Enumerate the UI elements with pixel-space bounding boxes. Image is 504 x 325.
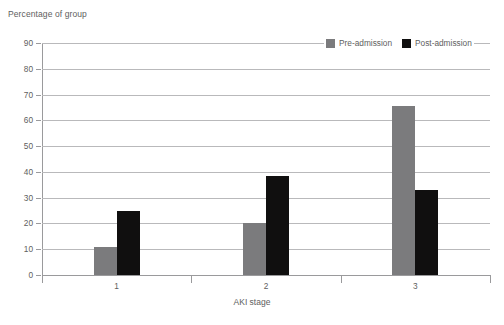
y-axis-tick-label: 80 [24, 64, 33, 74]
bar-group-2 [191, 43, 340, 275]
y-axis-tick-label: 20 [24, 218, 33, 228]
plot-area: 0102030405060708090 [42, 43, 490, 275]
y-axis-tick-mark [36, 275, 41, 276]
legend-label-pre-admission: Pre-admission [339, 38, 392, 48]
y-axis-tick-mark [36, 172, 41, 173]
bar-group-1 [42, 43, 191, 275]
legend-swatch-pre-admission [326, 39, 335, 48]
y-axis-tick-mark [36, 120, 41, 121]
x-axis-tick-label-3: 3 [341, 281, 490, 295]
x-axis-tick-mark [490, 275, 491, 283]
x-axis-tick-labels: 123 [42, 281, 490, 295]
y-axis-tick-mark [36, 223, 41, 224]
bar-groups [42, 43, 490, 275]
x-axis-tick-label-1: 1 [42, 281, 191, 295]
x-axis-line [42, 275, 491, 276]
bar-pre-admission-3[interactable] [392, 106, 415, 275]
y-axis-tick-mark [36, 249, 41, 250]
bar-pre-admission-2[interactable] [243, 223, 266, 275]
bar-pre-admission-1[interactable] [94, 247, 117, 275]
y-axis-tick-mark [36, 146, 41, 147]
bar-post-admission-2[interactable] [266, 176, 289, 275]
y-axis-tick-mark [36, 198, 41, 199]
y-axis-tick-label: 40 [24, 167, 33, 177]
y-axis-tick-mark [36, 43, 41, 44]
chart-legend: Pre-admission Post-admission [324, 37, 474, 49]
y-axis-tick-label: 70 [24, 90, 33, 100]
y-axis-tick-label: 30 [24, 193, 33, 203]
legend-label-post-admission: Post-admission [415, 38, 472, 48]
x-axis-tick-label-2: 2 [191, 281, 340, 295]
bar-group-3 [341, 43, 490, 275]
y-axis-title: Percentage of group [8, 9, 87, 19]
legend-item-post-admission[interactable]: Post-admission [402, 38, 472, 48]
y-axis-tick-mark [36, 95, 41, 96]
y-axis-tick-label: 50 [24, 141, 33, 151]
bar-post-admission-3[interactable] [415, 190, 438, 275]
legend-item-pre-admission[interactable]: Pre-admission [326, 38, 392, 48]
y-axis-tick-label: 10 [24, 244, 33, 254]
y-axis-tick-label: 0 [28, 270, 33, 280]
y-axis-tick-label: 90 [24, 38, 33, 48]
y-axis-tick-label: 60 [24, 115, 33, 125]
legend-swatch-post-admission [402, 39, 411, 48]
bar-chart: Percentage of group Pre-admission Post-a… [0, 0, 504, 325]
y-axis-tick-mark [36, 69, 41, 70]
x-axis-title: AKI stage [0, 297, 504, 307]
bar-post-admission-1[interactable] [117, 211, 140, 275]
